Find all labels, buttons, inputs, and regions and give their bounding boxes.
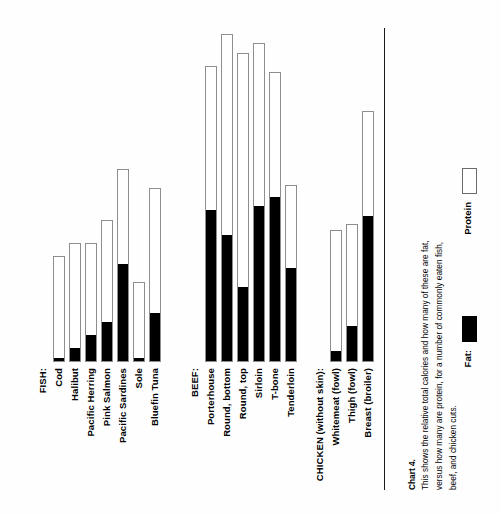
tick-label-beef-0: Porterhouse (206, 368, 216, 425)
tick-label-beef-3: Sirloin (254, 368, 264, 398)
tick-label-fish-4: Pacific Sardines (118, 368, 128, 443)
bar-segment-fat (222, 235, 232, 361)
legend-label-protein: Protein (463, 202, 473, 235)
tick-label-beef-5: Tenderloin (286, 368, 296, 417)
tick-label-chicken-1: Thigh (fowl) (347, 368, 357, 423)
bar-segment-fat (150, 313, 160, 361)
bar-segment-fat (363, 216, 373, 361)
bar-segment-fat (70, 348, 80, 361)
bar-segment-fat (238, 287, 248, 361)
chart-canvas: FISH: CodHalibutPacific HerringPink Salm… (0, 0, 500, 515)
caption-number: Chart 4. (407, 459, 417, 490)
tick-label-fish-2: Pacific Herring (86, 368, 96, 437)
bar-fish-6 (149, 188, 161, 362)
bar-segment-fat (254, 206, 264, 361)
bar-beef-2 (237, 53, 249, 362)
bar-segment-fat (347, 326, 357, 361)
bar-segment-fat (331, 351, 341, 361)
bar-beef-0 (205, 66, 217, 362)
bar-segment-fat (118, 264, 128, 361)
vertical-divider-rule (384, 28, 385, 490)
chart-caption: Chart 4. This shows the relative total c… (392, 240, 460, 490)
bar-beef-1 (221, 34, 233, 362)
bar-chicken-2 (362, 111, 374, 362)
bar-fish-3 (101, 220, 113, 362)
bar-fish-2 (85, 243, 97, 362)
tick-label-fish-6: Bluefin Tuna (150, 368, 160, 426)
bar-segment-fat (270, 197, 280, 361)
tick-label-fish-5: Sole (134, 368, 144, 388)
group-heading-chicken: CHICKEN (without skin): (315, 368, 325, 481)
bar-fish-5 (133, 282, 145, 363)
group-heading-beef: BEEF: (190, 368, 200, 397)
tick-label-beef-4: T-bone (270, 368, 280, 400)
bar-beef-4 (269, 72, 281, 362)
bar-chicken-0 (330, 230, 342, 362)
tick-label-chicken-0: Whitemeat (fowl) (331, 368, 341, 446)
bar-chicken-1 (346, 224, 358, 362)
bar-segment-fat (102, 322, 112, 361)
caption-text: This shows the relative total calories a… (420, 241, 457, 491)
bar-segment-fat (86, 335, 96, 361)
tick-label-chicken-2: Breast (broiler) (363, 368, 373, 438)
bar-segment-fat (54, 358, 64, 361)
tick-label-beef-1: Round, bottom (222, 368, 232, 437)
legend-label-fat: Fat: (463, 350, 473, 367)
bar-fish-1 (69, 243, 81, 362)
tick-label-fish-0: Cod (54, 368, 64, 387)
bar-segment-fat (206, 210, 216, 361)
legend-swatch-protein-icon (462, 168, 477, 194)
group-heading-fish: FISH: (38, 368, 48, 393)
tick-label-fish-1: Halibut (70, 368, 80, 401)
bar-beef-3 (253, 43, 265, 362)
legend-swatch-fat-icon (462, 316, 477, 342)
tick-label-beef-2: Round, top (238, 368, 248, 419)
bar-fish-4 (117, 169, 129, 362)
bar-segment-fat (286, 268, 296, 361)
tick-label-fish-3: Pink Salmon (102, 368, 112, 426)
bar-beef-5 (285, 185, 297, 362)
bar-segment-fat (134, 358, 144, 361)
bar-fish-0 (53, 256, 65, 362)
